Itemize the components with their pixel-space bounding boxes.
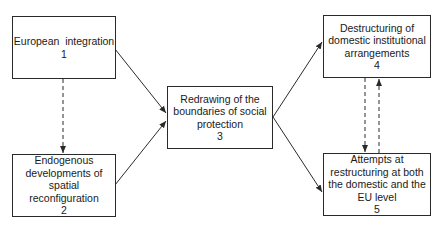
node-number: 4: [374, 59, 380, 72]
edge-1-to-3: [115, 49, 166, 113]
node-number: 2: [61, 204, 67, 217]
node-label: Redrawing of the boundaries of social pr…: [172, 93, 268, 131]
node-number: 5: [374, 203, 380, 216]
node-label: Destructuring of domestic institutional …: [327, 22, 427, 60]
node-label: Attempts at restructuring at both the do…: [327, 153, 427, 203]
node-label: Endogenous developments of spatial recon…: [16, 154, 112, 204]
node-redrawing-boundaries: Redrawing of the boundaries of social pr…: [167, 86, 273, 149]
node-label: European integration: [14, 35, 114, 48]
node-endogenous-developments: Endogenous developments of spatial recon…: [12, 154, 116, 217]
edge-2-to-3: [115, 121, 166, 185]
node-destructuring: Destructuring of domestic institutional …: [323, 15, 431, 78]
edge-3-to-5: [273, 117, 322, 192]
node-number: 1: [61, 48, 67, 61]
node-attempts-restructuring: Attempts at restructuring at both the do…: [323, 153, 431, 216]
node-number: 3: [217, 130, 223, 143]
node-european-integration: European integration 1: [12, 16, 116, 79]
edge-3-to-4: [273, 42, 322, 117]
